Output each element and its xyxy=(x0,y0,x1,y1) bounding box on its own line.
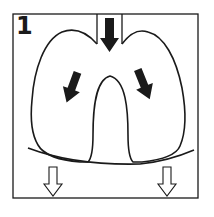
diaphragm-right-arrow-icon xyxy=(158,167,176,196)
right-lung-arrow-icon xyxy=(129,66,158,102)
step-number: 1 xyxy=(16,14,33,38)
lungs-outline xyxy=(31,30,185,162)
trachea-arrow-icon xyxy=(100,18,119,52)
diaphragm-left-arrow-icon xyxy=(44,167,62,196)
left-lung-arrow-icon xyxy=(58,69,86,105)
